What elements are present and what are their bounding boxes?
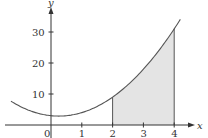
x-axis-label: x <box>197 120 203 131</box>
x-tick-label: 3 <box>140 128 146 138</box>
shaded-area <box>113 29 175 125</box>
y-tick-label: 30 <box>32 27 45 38</box>
x-tick-label: 1 <box>79 128 85 138</box>
x-tick-label: 0 <box>44 128 50 138</box>
y-tick-label: 10 <box>32 89 45 100</box>
chart: x y 01234102030 <box>0 0 208 138</box>
x-axis-arrow-icon <box>188 123 195 128</box>
y-axis-arrow-icon <box>49 7 54 14</box>
y-axis-label: y <box>47 0 54 8</box>
x-tick-label: 4 <box>171 128 177 138</box>
x-tick-label: 2 <box>110 128 116 138</box>
y-tick-label: 20 <box>32 58 45 69</box>
